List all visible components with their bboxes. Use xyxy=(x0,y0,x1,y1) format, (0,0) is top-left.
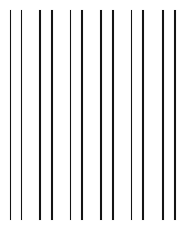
vertical-line-9 xyxy=(131,10,133,220)
vertical-line-5 xyxy=(70,10,72,220)
vertical-line-8 xyxy=(112,10,114,220)
vertical-line-11 xyxy=(162,10,164,220)
line-pattern-canvas xyxy=(0,0,192,232)
vertical-line-7 xyxy=(100,10,102,220)
vertical-line-6 xyxy=(81,10,83,220)
vertical-line-4 xyxy=(51,10,53,220)
vertical-line-12 xyxy=(174,10,176,220)
vertical-line-3 xyxy=(39,10,41,220)
vertical-line-1 xyxy=(10,10,12,220)
vertical-line-10 xyxy=(142,10,144,220)
vertical-line-2 xyxy=(21,10,23,220)
